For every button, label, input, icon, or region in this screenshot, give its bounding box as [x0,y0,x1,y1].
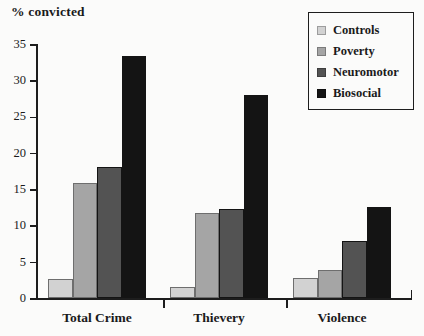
legend: ControlsPovertyNeuromotorBiosocial [308,12,414,110]
bar [73,183,98,298]
bar [342,241,367,298]
bar [48,279,73,298]
y-axis-tick-label: 30 [14,73,27,88]
y-axis-line [36,44,38,298]
bar [195,213,220,298]
legend-item-label: Controls [333,24,379,37]
y-axis-tick-label: 15 [14,182,27,197]
y-axis-title: % convicted [11,4,85,20]
x-axis-group-tick [163,299,165,308]
y-axis-tick: 15 [30,189,36,191]
x-axis-group-tick [286,299,288,308]
y-axis-tick: 30 [30,80,36,82]
legend-swatch-icon [317,89,326,98]
y-axis-tick: 0 [30,298,36,300]
bar-chart: % convicted 05101520253035 Total CrimeTh… [0,0,424,336]
x-axis-end-tick [411,290,413,299]
y-axis-tick-label: 10 [14,218,27,233]
legend-item[interactable]: Biosocial [309,83,413,104]
y-axis-tick: 35 [30,44,36,46]
legend-item[interactable]: Controls [309,20,413,41]
bar [318,270,343,298]
y-axis-tick-label: 25 [14,110,27,125]
x-axis-line [36,298,412,300]
x-axis-group-label: Total Crime [62,310,132,326]
bar [293,278,318,298]
bar [97,167,122,298]
y-axis-tick: 10 [30,225,36,227]
legend-item-label: Poverty [333,45,375,58]
legend-swatch-icon [317,68,326,77]
bar [367,207,392,298]
legend-item[interactable]: Neuromotor [309,62,413,83]
legend-item-label: Neuromotor [333,66,399,79]
x-axis-group-label: Violence [318,310,367,326]
y-axis-tick-label: 20 [14,146,27,161]
y-axis-tick: 20 [30,153,36,155]
y-axis-tick: 25 [30,117,36,119]
bar [122,56,147,298]
bar [244,95,269,298]
x-axis-group-label: Thievery [193,310,245,326]
legend-swatch-icon [317,47,326,56]
bar [219,209,244,298]
legend-item[interactable]: Poverty [309,41,413,62]
y-axis-tick-label: 35 [14,37,27,52]
bar [170,287,195,298]
legend-item-label: Biosocial [333,87,381,100]
y-axis-tick-label: 0 [20,291,26,306]
y-axis-tick-label: 5 [20,255,26,270]
y-axis-tick: 5 [30,262,36,264]
legend-swatch-icon [317,26,326,35]
